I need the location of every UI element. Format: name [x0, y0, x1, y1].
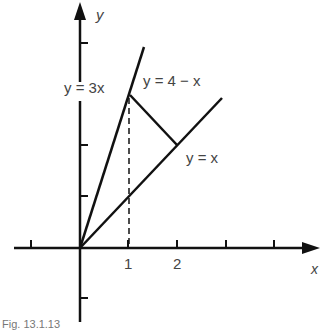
x-axis-label: x — [311, 262, 318, 276]
x-tick-label-2: 2 — [173, 256, 181, 271]
y-axis-label: y — [96, 7, 104, 22]
line-y-equals-4-minus-x — [130, 95, 177, 145]
label-y-equals-3x: y = 3x — [64, 80, 104, 95]
line-y-equals-3x — [80, 47, 144, 248]
y-axis-arrow — [74, 2, 86, 20]
label-y-equals-x: y = x — [186, 150, 218, 165]
x-tick-label-1: 1 — [124, 256, 132, 271]
line-y-equals-x — [80, 98, 222, 248]
figure-caption: Fig. 13.1.13 — [2, 318, 60, 330]
x-axis-arrow — [302, 242, 320, 254]
label-y-equals-4-minus-x: y = 4 − x — [143, 73, 201, 88]
